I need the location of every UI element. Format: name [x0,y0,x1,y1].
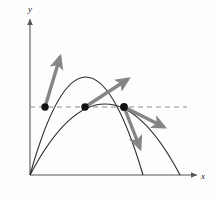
curves-group [30,77,180,175]
math-figure: x y [0,0,214,202]
x-axis-label: x [200,171,205,181]
tangent-arrow-left-up [45,57,60,107]
tall-narrow-parabola [30,77,143,175]
right-intersection-point [120,103,128,111]
axes-group: x y [27,4,205,181]
middle-point [81,103,88,110]
tangent-arrows-group [45,57,164,148]
wide-flat-parabola [30,104,180,175]
tangent-arrow-middle-upright [85,79,128,107]
y-axis-label: y [27,4,32,14]
plot-canvas: x y [0,0,214,202]
left-intersection-point [41,103,48,110]
